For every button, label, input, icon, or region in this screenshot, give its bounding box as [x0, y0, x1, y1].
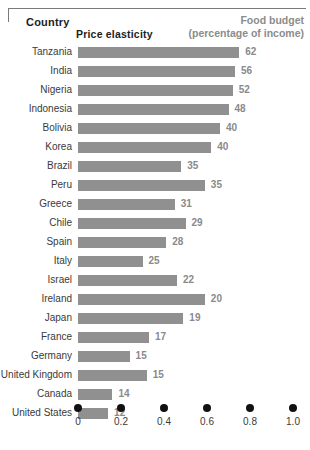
axis-tick-dot [203, 404, 211, 412]
bar [78, 104, 229, 115]
bar-value-label: 22 [183, 274, 194, 285]
country-label: United Kingdom [0, 369, 72, 380]
bar-chart-plot-area: Tanzania62India56Nigeria52Indonesia48Bol… [0, 44, 310, 406]
axis-tick-dot [246, 404, 254, 412]
bar-value-label: 15 [153, 369, 164, 380]
chart-row: Peru35 [0, 177, 310, 196]
axis-tick-label: 0 [63, 416, 93, 427]
bar [78, 218, 186, 229]
bar-value-label: 29 [192, 217, 203, 228]
country-label: Korea [0, 141, 72, 152]
bar-value-label: 28 [172, 236, 183, 247]
country-label: Japan [0, 312, 72, 323]
bar [78, 180, 205, 191]
axis-tick-dot [117, 404, 125, 412]
country-label: Greece [0, 198, 72, 209]
country-label: Tanzania [0, 46, 72, 57]
column-header-country: Country [26, 16, 70, 28]
country-label: Bolivia [0, 122, 72, 133]
country-label: France [0, 331, 72, 342]
bar-value-label: 19 [189, 312, 200, 323]
chart-row: Bolivia40 [0, 120, 310, 139]
bar [78, 199, 175, 210]
country-label: Brazil [0, 160, 72, 171]
country-label: Peru [0, 179, 72, 190]
chart-row: India56 [0, 63, 310, 82]
bar [78, 275, 177, 286]
country-label: Ireland [0, 293, 72, 304]
bar [78, 142, 211, 153]
axis-tick-dot [160, 404, 168, 412]
bar-value-label: 35 [211, 179, 222, 190]
chart-row: Indonesia48 [0, 101, 310, 120]
bar-value-label: 40 [217, 141, 228, 152]
axis-tick-label: 1.0 [278, 416, 308, 427]
country-label: Nigeria [0, 84, 72, 95]
bar-value-label: 25 [149, 255, 160, 266]
country-label: Canada [0, 388, 72, 399]
chart-row: Japan19 [0, 310, 310, 329]
bar-value-label: 56 [241, 65, 252, 76]
chart-row: United Kingdom15 [0, 367, 310, 386]
axis-tick-label: 0.2 [106, 416, 136, 427]
bar [78, 66, 235, 77]
chart-row: Italy25 [0, 253, 310, 272]
x-axis: 00.20.40.60.81.0 [0, 404, 310, 450]
bar [78, 313, 183, 324]
bar-value-label: 31 [181, 198, 192, 209]
chart-row: Tanzania62 [0, 44, 310, 63]
bar-value-label: 52 [239, 84, 250, 95]
axis-tick-label: 0.8 [235, 416, 265, 427]
x-axis-title: Price elasticity [76, 28, 153, 40]
bar-value-label: 15 [136, 350, 147, 361]
chart-row: Germany15 [0, 348, 310, 367]
chart-row: Canada14 [0, 386, 310, 405]
bar-value-label: 20 [211, 293, 222, 304]
chart-row: Spain28 [0, 234, 310, 253]
top-left-corner-tick [8, 8, 9, 22]
food-budget-title: Food budget [104, 14, 304, 27]
bar [78, 351, 130, 362]
axis-tick-dot [74, 404, 82, 412]
chart-row: France17 [0, 329, 310, 348]
axis-tick-label: 0.6 [192, 416, 222, 427]
axis-tick-dot [289, 404, 297, 412]
country-label: Germany [0, 350, 72, 361]
bar [78, 161, 181, 172]
bar [78, 123, 220, 134]
country-label: Spain [0, 236, 72, 247]
bar-value-label: 17 [155, 331, 166, 342]
bar [78, 370, 147, 381]
bar [78, 389, 112, 400]
country-label: India [0, 65, 72, 76]
chart-row: Brazil35 [0, 158, 310, 177]
bar-value-label: 62 [245, 46, 256, 57]
top-rule [8, 8, 306, 9]
chart-row: Chile29 [0, 215, 310, 234]
chart-row: Nigeria52 [0, 82, 310, 101]
chart-row: Israel22 [0, 272, 310, 291]
bar-value-label: 48 [235, 103, 246, 114]
bar [78, 294, 205, 305]
bar [78, 256, 143, 267]
chart-row: Greece31 [0, 196, 310, 215]
bar [78, 47, 239, 58]
axis-tick-label: 0.4 [149, 416, 179, 427]
country-label: Chile [0, 217, 72, 228]
country-label: Italy [0, 255, 72, 266]
chart-row: Ireland20 [0, 291, 310, 310]
bar [78, 332, 149, 343]
chart-row: Korea40 [0, 139, 310, 158]
bar-value-label: 35 [187, 160, 198, 171]
country-label: Indonesia [0, 103, 72, 114]
bar [78, 237, 166, 248]
bar-value-label: 40 [226, 122, 237, 133]
bar-value-label: 14 [118, 388, 129, 399]
country-label: Israel [0, 274, 72, 285]
bar [78, 85, 233, 96]
